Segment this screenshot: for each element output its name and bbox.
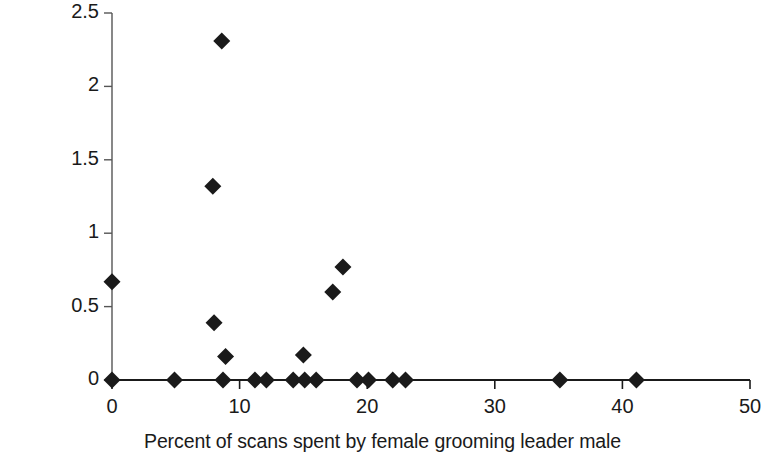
data-markers xyxy=(104,32,645,388)
scatter-plot-figure: Hourly rate of agonism by leader male to… xyxy=(0,0,765,452)
data-point-9 xyxy=(258,372,275,389)
data-point-19 xyxy=(397,372,414,389)
data-point-7 xyxy=(215,372,232,389)
data-point-4 xyxy=(204,178,221,195)
data-point-6 xyxy=(217,348,234,365)
data-point-21 xyxy=(628,372,645,389)
data-point-15 xyxy=(324,283,341,300)
data-point-20 xyxy=(551,372,568,389)
x-axis-label: Percent of scans spent by female groomin… xyxy=(0,430,765,452)
data-point-14 xyxy=(334,258,351,275)
data-point-11 xyxy=(295,347,312,364)
data-point-5 xyxy=(206,314,223,331)
data-point-3 xyxy=(213,32,230,49)
axis-lines xyxy=(112,13,750,380)
data-point-1 xyxy=(104,372,121,389)
plot-area xyxy=(0,0,765,452)
data-point-17 xyxy=(360,372,377,389)
data-point-0 xyxy=(104,273,121,290)
data-point-2 xyxy=(166,372,183,389)
tick-marks xyxy=(104,13,750,389)
data-point-13 xyxy=(308,372,325,389)
